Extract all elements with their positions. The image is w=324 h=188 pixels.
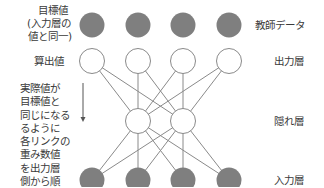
target-layer xyxy=(80,13,242,38)
input-node xyxy=(126,168,151,188)
connections-output-hidden xyxy=(92,61,229,121)
target-label: 目標値 (入力層の 値と同一) xyxy=(28,4,78,44)
explanation-line: るように xyxy=(20,122,70,135)
output-layer-label: 出力層 xyxy=(274,55,304,68)
input-node xyxy=(217,168,242,188)
input-node xyxy=(171,168,196,188)
hidden-layer-label: 隠れ層 xyxy=(274,115,304,128)
input-layer-label: 入力層 xyxy=(274,174,304,187)
hidden-layer xyxy=(126,109,196,134)
teacher-data-label: 教師データ xyxy=(255,19,305,32)
explanation-line: 同じになる xyxy=(20,109,70,122)
target-node xyxy=(126,13,151,38)
connections-hidden-input xyxy=(92,121,229,180)
explanation-line: 各リンクの xyxy=(20,135,70,148)
explanation-line: 重み数値 xyxy=(20,148,70,161)
hidden-node xyxy=(171,109,196,134)
output-layer xyxy=(80,49,242,74)
computed-label: 算出値 xyxy=(34,55,64,68)
explanation-line: 側から順 xyxy=(20,175,70,187)
input-layer xyxy=(80,168,242,188)
explanation-line: を出力層 xyxy=(20,162,70,175)
explanation-line: 目標値と xyxy=(20,95,70,108)
input-node xyxy=(80,168,105,188)
output-node xyxy=(80,49,105,74)
target-label-line: 目標値 xyxy=(28,4,78,17)
target-node xyxy=(80,13,105,38)
down-arrow-icon xyxy=(81,83,86,122)
explanation-text: 実際値が 目標値と 同じになる るように 各リンクの 重み数値 を出力層 側から… xyxy=(20,82,70,187)
output-node xyxy=(171,49,196,74)
hidden-node xyxy=(126,109,151,134)
target-node xyxy=(217,13,242,38)
output-node xyxy=(126,49,151,74)
target-node xyxy=(171,13,196,38)
target-label-line: (入力層の xyxy=(20,17,78,30)
output-node xyxy=(217,49,242,74)
explanation-line: 実際値が xyxy=(20,82,70,95)
target-label-line: 値と同一) xyxy=(22,30,78,43)
